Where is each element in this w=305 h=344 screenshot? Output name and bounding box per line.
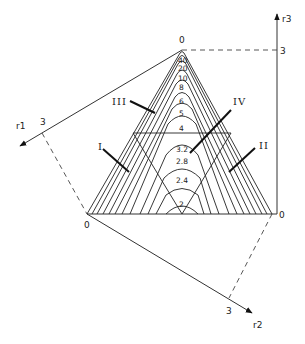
region-label-I: I: [98, 141, 103, 152]
contour-label-2-8: 2.8: [176, 157, 188, 166]
contour-label-2: 2: [179, 200, 184, 209]
apex-vertex-label: 0: [179, 35, 185, 45]
contour-label-5: 5: [179, 109, 184, 118]
contour-label-6: 6: [179, 97, 184, 106]
region-II: II: [229, 140, 269, 172]
contour-label-3-2: 3.2: [176, 145, 188, 154]
contour-label-4: 4: [179, 124, 184, 133]
ternary-diagram: r3 3 r1 3 3 r2 0 0 0: [0, 0, 305, 344]
r1-tick-label: 3: [40, 117, 46, 127]
r2-dashed-guide: [229, 214, 272, 298]
contour-label-8: 8: [179, 83, 184, 92]
region-label-II: II: [259, 140, 269, 151]
r2-axis: 3 r2: [87, 214, 272, 330]
r1-dashed-guide: [42, 133, 87, 214]
contour-label-10: 10: [178, 74, 188, 83]
right-vertex-label: 0: [279, 210, 285, 220]
contour-value-labels: 40 20 10 8 6 5 4 3.2 2.8 2.4 2: [176, 56, 188, 209]
r3-tick-label: 3: [280, 46, 286, 56]
r3-axis-label: r3: [282, 14, 291, 24]
contour-label-20: 20: [178, 64, 188, 73]
r2-axis-label: r2: [253, 320, 262, 330]
left-vertex-label: 0: [84, 220, 90, 230]
r2-tick-label: 3: [226, 306, 232, 316]
region-III: III: [112, 96, 155, 113]
contour-label-2-4: 2.4: [176, 176, 188, 185]
region-label-III: III: [112, 96, 127, 107]
region-label-IV: IV: [233, 96, 246, 107]
r3-axis: r3 3: [182, 14, 291, 214]
r1-axis-label: r1: [16, 121, 25, 131]
